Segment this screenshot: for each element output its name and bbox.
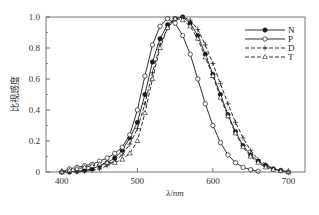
- open-triangle-marker: [120, 157, 125, 161]
- plus-marker: [225, 101, 230, 106]
- y-tick-label: 0.4: [29, 105, 41, 115]
- y-axis-ticks: 00.20.40.60.81.0: [29, 12, 50, 177]
- open-circle-marker: [135, 108, 139, 112]
- x-tick-label: 500: [131, 176, 145, 186]
- y-tick-label: 1.0: [29, 12, 41, 22]
- open-circle-marker: [203, 102, 207, 106]
- open-circle-marker: [188, 52, 192, 56]
- y-tick-label: 0.6: [29, 74, 41, 84]
- series-line: [62, 17, 289, 172]
- open-circle-marker: [263, 37, 267, 41]
- filled-circle-marker: [158, 37, 162, 41]
- filled-circle-marker: [263, 28, 267, 32]
- series-line: [62, 17, 289, 172]
- open-circle-marker: [226, 153, 230, 157]
- series-D: [59, 15, 291, 175]
- open-circle-marker: [120, 145, 124, 149]
- legend: NPDT: [245, 25, 295, 62]
- open-circle-marker: [150, 43, 154, 47]
- plus-marker: [241, 135, 246, 140]
- open-circle-marker: [241, 165, 245, 169]
- open-circle-marker: [218, 140, 222, 144]
- open-circle-marker: [158, 24, 162, 28]
- luminosity-chart: 00.20.40.60.81.0 400500600700 比视感度 λ/nm …: [0, 0, 319, 215]
- y-tick-label: 0: [36, 167, 41, 177]
- open-circle-marker: [248, 167, 252, 171]
- open-triangle-marker: [263, 54, 268, 58]
- filled-circle-marker: [150, 60, 154, 64]
- open-circle-marker: [128, 133, 132, 137]
- x-tick-label: 700: [282, 176, 296, 186]
- y-tick-label: 0.8: [29, 43, 41, 53]
- open-triangle-marker: [135, 138, 140, 142]
- open-triangle-marker: [143, 111, 148, 115]
- open-circle-marker: [256, 169, 260, 173]
- y-axis-label: 比视感度: [9, 76, 20, 112]
- open-triangle-marker: [158, 45, 163, 49]
- legend-item-P: P: [245, 34, 293, 44]
- plot-area: [59, 15, 291, 175]
- series-T: [59, 16, 290, 174]
- series-line: [62, 19, 289, 172]
- open-circle-marker: [113, 151, 117, 155]
- x-tick-label: 400: [55, 176, 69, 186]
- open-circle-marker: [143, 74, 147, 78]
- plus-marker: [210, 61, 215, 66]
- open-circle-marker: [180, 33, 184, 37]
- filled-circle-marker: [135, 120, 139, 124]
- legend-item-T: T: [245, 52, 294, 62]
- plus-marker: [263, 46, 268, 51]
- x-axis-label: λ/nm: [165, 188, 184, 198]
- plus-marker: [195, 27, 200, 32]
- legend-label: T: [288, 52, 294, 62]
- plus-marker: [233, 120, 238, 125]
- plus-marker: [203, 42, 208, 47]
- series-line: [62, 19, 258, 172]
- plus-marker: [218, 81, 223, 86]
- open-circle-marker: [233, 161, 237, 165]
- open-circle-marker: [173, 21, 177, 25]
- open-circle-marker: [211, 123, 215, 127]
- x-tick-label: 600: [206, 176, 220, 186]
- open-circle-marker: [196, 77, 200, 81]
- y-tick-label: 0.2: [29, 136, 40, 146]
